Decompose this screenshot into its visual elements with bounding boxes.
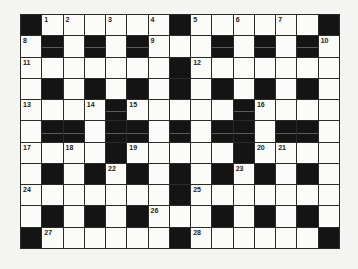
answer-cell[interactable] [234,79,254,99]
answer-cell[interactable]: 17 [21,143,41,163]
answer-cell[interactable] [85,185,105,205]
answer-cell[interactable]: 27 [42,228,62,248]
answer-cell[interactable] [149,228,169,248]
answer-cell[interactable] [127,15,147,35]
answer-cell[interactable]: 22 [106,164,126,184]
answer-cell[interactable] [64,228,84,248]
answer-cell[interactable] [297,143,317,163]
answer-cell[interactable] [149,58,169,78]
answer-cell[interactable] [255,228,275,248]
answer-cell[interactable] [149,185,169,205]
answer-cell[interactable] [319,79,339,99]
answer-cell[interactable]: 14 [85,100,105,120]
answer-cell[interactable]: 28 [191,228,211,248]
answer-cell[interactable] [85,143,105,163]
answer-cell[interactable] [319,121,339,141]
answer-cell[interactable] [85,15,105,35]
answer-cell[interactable] [191,36,211,56]
answer-cell[interactable] [149,121,169,141]
answer-cell[interactable] [319,58,339,78]
answer-cell[interactable] [170,206,190,226]
answer-cell[interactable]: 19 [127,143,147,163]
answer-cell[interactable] [106,206,126,226]
answer-cell[interactable] [85,228,105,248]
answer-cell[interactable] [319,206,339,226]
answer-cell[interactable] [191,79,211,99]
answer-cell[interactable] [149,164,169,184]
answer-cell[interactable] [127,185,147,205]
answer-cell[interactable] [85,121,105,141]
answer-cell[interactable] [42,185,62,205]
answer-cell[interactable] [191,143,211,163]
answer-cell[interactable]: 6 [234,15,254,35]
answer-cell[interactable] [255,58,275,78]
answer-cell[interactable] [106,79,126,99]
answer-cell[interactable] [255,185,275,205]
answer-cell[interactable] [319,143,339,163]
answer-cell[interactable] [170,100,190,120]
answer-cell[interactable]: 10 [319,36,339,56]
answer-cell[interactable]: 24 [21,185,41,205]
answer-cell[interactable] [234,228,254,248]
answer-cell[interactable] [297,185,317,205]
answer-cell[interactable] [234,185,254,205]
answer-cell[interactable] [21,79,41,99]
answer-cell[interactable] [191,100,211,120]
answer-cell[interactable]: 1 [42,15,62,35]
answer-cell[interactable] [170,143,190,163]
answer-cell[interactable]: 21 [276,143,296,163]
answer-cell[interactable]: 5 [191,15,211,35]
answer-cell[interactable]: 8 [21,36,41,56]
answer-cell[interactable]: 2 [64,15,84,35]
answer-cell[interactable] [234,58,254,78]
answer-cell[interactable] [21,164,41,184]
answer-cell[interactable] [21,121,41,141]
answer-cell[interactable] [106,58,126,78]
answer-cell[interactable] [297,15,317,35]
answer-cell[interactable] [255,15,275,35]
answer-cell[interactable]: 12 [191,58,211,78]
answer-cell[interactable] [106,228,126,248]
answer-cell[interactable] [42,58,62,78]
answer-cell[interactable] [234,206,254,226]
answer-cell[interactable] [42,100,62,120]
answer-cell[interactable]: 25 [191,185,211,205]
answer-cell[interactable] [149,79,169,99]
answer-cell[interactable]: 3 [106,15,126,35]
answer-cell[interactable] [276,164,296,184]
answer-cell[interactable] [297,58,317,78]
answer-cell[interactable] [276,228,296,248]
answer-cell[interactable]: 23 [234,164,254,184]
answer-cell[interactable] [64,36,84,56]
answer-cell[interactable] [42,143,62,163]
answer-cell[interactable] [319,164,339,184]
answer-cell[interactable] [319,100,339,120]
answer-cell[interactable] [255,121,275,141]
answer-cell[interactable]: 16 [255,100,275,120]
answer-cell[interactable] [276,58,296,78]
answer-cell[interactable]: 4 [149,15,169,35]
answer-cell[interactable]: 15 [127,100,147,120]
answer-cell[interactable] [276,79,296,99]
answer-cell[interactable] [212,228,232,248]
answer-cell[interactable] [234,36,254,56]
answer-cell[interactable] [212,143,232,163]
answer-cell[interactable] [64,79,84,99]
answer-cell[interactable] [212,58,232,78]
answer-cell[interactable]: 20 [255,143,275,163]
answer-cell[interactable] [212,100,232,120]
answer-cell[interactable] [149,143,169,163]
answer-cell[interactable] [149,100,169,120]
answer-cell[interactable] [127,58,147,78]
answer-cell[interactable] [212,185,232,205]
answer-cell[interactable] [276,100,296,120]
answer-cell[interactable] [106,185,126,205]
answer-cell[interactable] [276,36,296,56]
answer-cell[interactable]: 26 [149,206,169,226]
answer-cell[interactable]: 7 [276,15,296,35]
answer-cell[interactable] [276,185,296,205]
answer-cell[interactable]: 9 [149,36,169,56]
answer-cell[interactable] [64,58,84,78]
answer-cell[interactable] [64,164,84,184]
answer-cell[interactable] [64,100,84,120]
